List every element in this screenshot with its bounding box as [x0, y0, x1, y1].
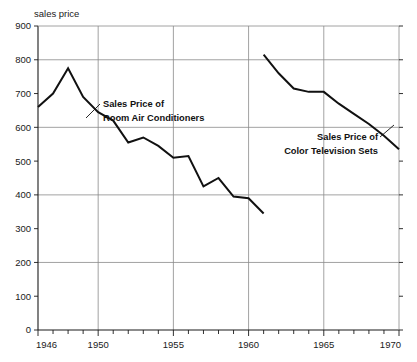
ticks-group	[34, 26, 403, 336]
annotation-label-color-television: Color Television Sets	[284, 146, 378, 156]
tick-labels-group: 0100200300400500600700800900194619501955…	[15, 8, 401, 350]
x-tick-label: 1946	[36, 339, 57, 350]
y-tick-label: 600	[15, 122, 31, 133]
y-tick-label: 800	[15, 54, 31, 65]
y-tick-label: 0	[26, 324, 31, 335]
y-tick-label: 100	[15, 291, 31, 302]
leader-line-color-television	[380, 125, 394, 137]
series-line-0	[38, 68, 264, 213]
y-tick-label: 700	[15, 88, 31, 99]
y-axis-title: sales price	[34, 8, 79, 19]
x-tick-label: 1955	[163, 339, 184, 350]
y-tick-label: 500	[15, 156, 31, 167]
x-tick-label: 1965	[313, 339, 334, 350]
y-tick-label: 400	[15, 189, 31, 200]
x-tick-label: 1970	[380, 339, 401, 350]
x-tick-label: 1960	[238, 339, 259, 350]
line-chart: 0100200300400500600700800900194619501955…	[0, 0, 417, 362]
x-tick-label: 1950	[88, 339, 109, 350]
annotation-label-air-conditioners: Room Air Conditioners	[103, 113, 204, 123]
y-tick-label: 200	[15, 257, 31, 268]
chart-container: 0100200300400500600700800900194619501955…	[0, 0, 417, 362]
annotation-label-color-television: Sales Price of	[317, 132, 379, 142]
y-tick-label: 900	[15, 20, 31, 31]
y-tick-label: 300	[15, 223, 31, 234]
annotation-label-air-conditioners: Sales Price of	[103, 99, 165, 109]
